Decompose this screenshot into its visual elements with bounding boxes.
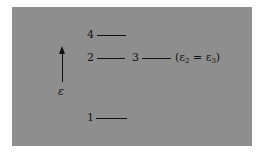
degeneracy-annotation: (ε2 = ε3) xyxy=(175,52,220,64)
level-3-label: 3 xyxy=(132,52,139,64)
diagram-panel xyxy=(12,7,252,146)
level-1-label: 1 xyxy=(87,112,94,124)
level-4-label: 4 xyxy=(87,29,94,41)
level-4-line xyxy=(97,35,126,36)
level-2-label: 2 xyxy=(87,52,94,64)
level-3-line xyxy=(142,58,171,59)
level-2-line xyxy=(97,58,125,59)
level-1-line xyxy=(96,118,127,119)
energy-axis-label: ε xyxy=(58,86,64,98)
